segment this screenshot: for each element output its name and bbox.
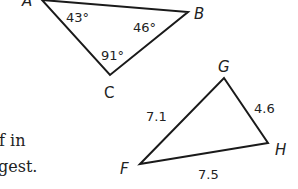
triangle-abc [42, 0, 188, 75]
vertex-label-a: A [21, 0, 32, 10]
geometry-figure: A B C 43° 46° 91° G H F 7.1 4.6 7.5 [0, 0, 298, 189]
angle-b: 46° [133, 20, 156, 35]
side-gh: 4.6 [254, 101, 275, 116]
clipped-text-line-1: f in [0, 131, 25, 150]
clipped-text-line-2: gest. [0, 157, 37, 176]
vertex-label-h: H [275, 141, 286, 159]
vertex-label-c: C [104, 84, 114, 102]
vertex-label-b: B [194, 5, 204, 23]
vertex-label-f: F [120, 160, 129, 178]
angle-c: 91° [101, 48, 124, 63]
angle-a: 43° [66, 10, 89, 25]
side-fg: 7.1 [146, 109, 167, 124]
side-fh: 7.5 [198, 167, 219, 182]
vertex-label-g: G [218, 58, 230, 76]
